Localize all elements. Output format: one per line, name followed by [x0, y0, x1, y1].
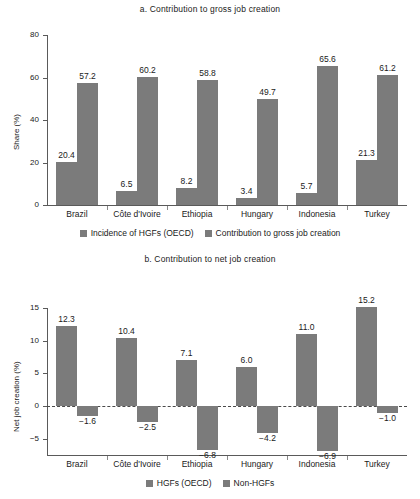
- bar-a-3-0: [236, 198, 257, 205]
- legend-entry-a-1[interactable]: Contribution to gross job creation: [205, 228, 341, 238]
- y-tick-a-3: [43, 78, 47, 79]
- bar-a-2-0: [176, 188, 197, 205]
- bar-value-label-b-1-1: −2.5: [129, 423, 166, 432]
- bar-b-5-1: [377, 406, 398, 413]
- category-label-a-2: Ethiopia: [167, 209, 227, 219]
- bar-value-label-b-0-0: 12.3: [48, 315, 85, 324]
- bar-b-0-0: [56, 326, 77, 406]
- category-label-a-5: Turkey: [347, 209, 407, 219]
- category-label-a-4: Indonesia: [287, 209, 347, 219]
- legend-swatch-icon: [205, 230, 212, 237]
- bar-value-label-a-2-1: 58.8: [189, 69, 226, 78]
- bar-value-label-a-1-1: 60.2: [129, 66, 166, 75]
- bar-b-1-0: [116, 338, 137, 406]
- bar-b-4-1: [317, 406, 338, 451]
- y-tick-label-a-0: 0: [17, 201, 39, 209]
- bar-value-label-b-0-1: −1.6: [69, 417, 106, 426]
- y-tick-label-b-0: −5: [17, 435, 39, 443]
- category-label-a-1: Côte d'Ivoire: [107, 209, 167, 219]
- bar-a-5-1: [377, 75, 398, 205]
- y-tick-b-0: [43, 439, 47, 440]
- y-tick-label-a-3: 60: [17, 74, 39, 82]
- bar-value-label-b-2-1: −6.8: [189, 451, 226, 460]
- bar-a-0-0: [56, 162, 77, 205]
- zero-reference-line: [47, 406, 407, 407]
- bar-value-label-b-3-1: −4.2: [249, 434, 286, 443]
- legend-label: Contribution to gross job creation: [216, 228, 341, 238]
- bar-b-2-1: [197, 406, 218, 450]
- chart-b-title: b. Contribution to net job creation: [0, 254, 420, 264]
- bar-value-label-b-5-1: −1.0: [369, 414, 406, 423]
- bar-b-3-1: [257, 406, 278, 433]
- y-tick-a-2: [43, 120, 47, 121]
- category-label-a-3: Hungary: [227, 209, 287, 219]
- category-label-b-3: Hungary: [227, 459, 287, 469]
- bar-b-4-0: [296, 334, 317, 406]
- y-tick-b-3: [43, 341, 47, 342]
- bar-b-0-1: [77, 406, 98, 416]
- legend-swatch-icon: [146, 480, 153, 487]
- bar-value-label-a-3-1: 49.7: [249, 88, 286, 97]
- category-label-b-1: Côte d'Ivoire: [107, 459, 167, 469]
- y-tick-label-a-1: 20: [17, 159, 39, 167]
- bar-b-3-0: [236, 367, 257, 406]
- category-label-b-2: Ethiopia: [167, 459, 227, 469]
- legend-swatch-icon: [80, 230, 87, 237]
- y-tick-a-4: [43, 35, 47, 36]
- bar-a-5-0: [356, 160, 377, 205]
- y-tick-label-a-4: 80: [17, 31, 39, 39]
- bar-value-label-b-5-0: 15.2: [348, 296, 385, 305]
- bar-value-label-b-3-0: 6.0: [228, 356, 265, 365]
- bar-b-2-0: [176, 360, 197, 406]
- bar-value-label-b-1-0: 10.4: [108, 327, 145, 336]
- bar-value-label-a-5-1: 61.2: [369, 64, 406, 73]
- bar-value-label-b-4-1: −6.9: [309, 452, 346, 461]
- legend-label: Non-HGFs: [234, 478, 275, 488]
- bar-value-label-b-2-0: 7.1: [168, 349, 205, 358]
- bar-a-1-0: [116, 191, 137, 205]
- legend-label: HGFs (OECD): [157, 478, 212, 488]
- category-label-a-0: Brazil: [47, 209, 107, 219]
- bar-a-3-1: [257, 99, 278, 205]
- y-axis-line-a: [47, 35, 48, 205]
- figure-root: a. Contribution to gross job creation b.…: [0, 0, 420, 499]
- y-tick-label-b-4: 15: [17, 304, 39, 312]
- y-tick-label-b-3: 10: [17, 337, 39, 345]
- y-tick-a-1: [43, 163, 47, 164]
- bar-a-4-1: [317, 66, 338, 205]
- legend-b: HGFs (OECD)Non-HGFs: [0, 478, 420, 488]
- bar-a-1-1: [137, 77, 158, 205]
- bar-a-0-1: [77, 83, 98, 205]
- y-tick-b-4: [43, 308, 47, 309]
- category-label-b-0: Brazil: [47, 459, 107, 469]
- bar-b-1-1: [137, 406, 158, 422]
- legend-label: Incidence of HGFs (OECD): [91, 228, 194, 238]
- category-label-b-5: Turkey: [347, 459, 407, 469]
- y-axis-line-b: [47, 308, 48, 455]
- y-tick-b-2: [43, 373, 47, 374]
- y-tick-a-0: [43, 205, 47, 206]
- bar-value-label-a-4-1: 65.6: [309, 55, 346, 64]
- y-axis-title-b: Net job creation (%): [12, 361, 21, 432]
- bar-b-5-0: [356, 307, 377, 406]
- legend-entry-a-0[interactable]: Incidence of HGFs (OECD): [80, 228, 194, 238]
- chart-a-title: a. Contribution to gross job creation: [0, 4, 420, 14]
- bar-value-label-b-4-0: 11.0: [288, 323, 325, 332]
- legend-entry-b-0[interactable]: HGFs (OECD): [146, 478, 212, 488]
- legend-a: Incidence of HGFs (OECD)Contribution to …: [0, 228, 420, 238]
- legend-swatch-icon: [223, 480, 230, 487]
- bar-a-2-1: [197, 80, 218, 205]
- y-axis-title-a: Share (%): [12, 114, 21, 150]
- bar-a-4-0: [296, 193, 317, 205]
- legend-entry-b-1[interactable]: Non-HGFs: [223, 478, 275, 488]
- bar-value-label-a-0-1: 57.2: [69, 72, 106, 81]
